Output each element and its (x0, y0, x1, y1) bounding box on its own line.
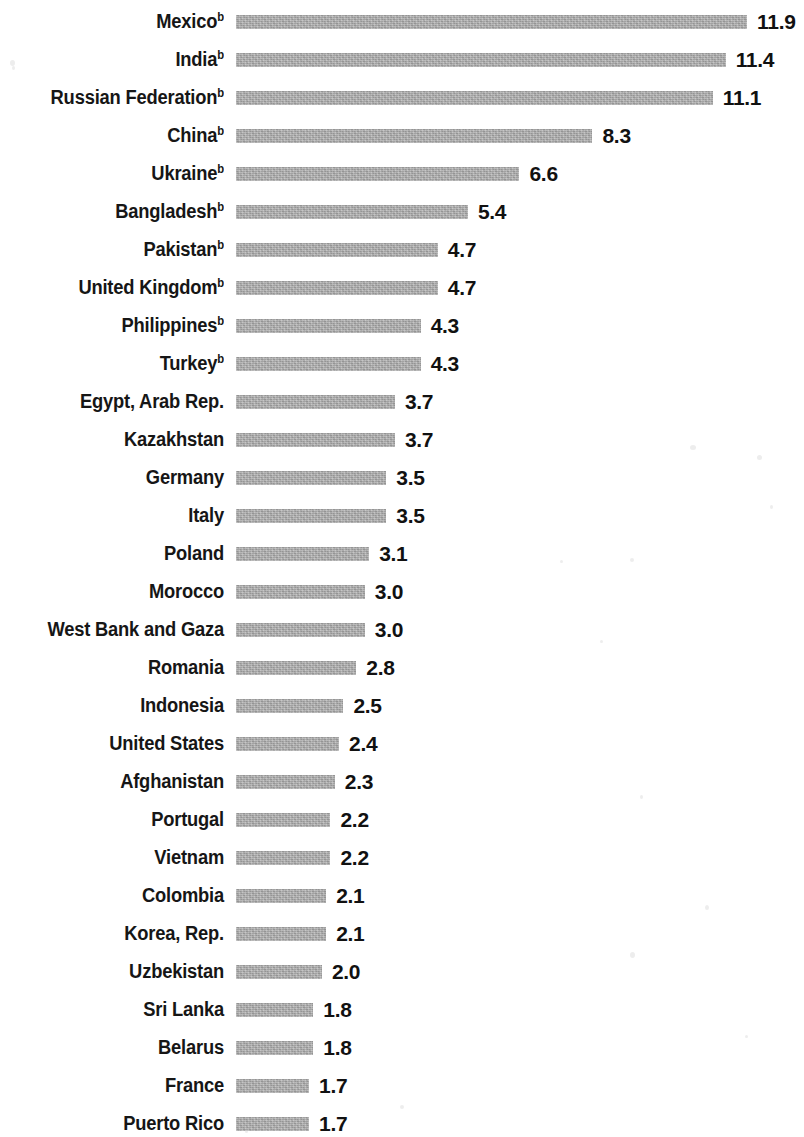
category-label: United States (13, 734, 224, 754)
bar-value-label: 6.6 (529, 163, 557, 184)
footnote-marker: b (217, 47, 224, 61)
bar-value-label: 1.8 (323, 999, 351, 1020)
chart-row: Philippinesb4.3 (0, 307, 804, 345)
category-label: Korea, Rep. (13, 924, 224, 944)
bar (236, 1079, 309, 1093)
chart-row: Italy3.5 (0, 497, 804, 535)
category-label: Turkeyb (13, 354, 224, 374)
bar-value-label: 2.2 (340, 809, 368, 830)
footnote-marker: b (217, 161, 224, 175)
category-label: Morocco (13, 582, 224, 602)
bar-value-label: 1.7 (319, 1075, 347, 1096)
chart-row: Belarus1.8 (0, 1029, 804, 1067)
bar-value-label: 11.4 (736, 49, 775, 70)
bar (236, 889, 326, 903)
bar-value-label: 3.7 (405, 391, 433, 412)
bar-value-label: 3.7 (405, 429, 433, 450)
footnote-marker: b (217, 9, 224, 23)
bar-value-label: 4.7 (448, 239, 476, 260)
bar-value-label: 3.1 (379, 543, 407, 564)
bar (236, 281, 438, 295)
chart-row: West Bank and Gaza3.0 (0, 611, 804, 649)
footnote-marker: b (217, 237, 224, 251)
horizontal-bar-chart: Mexicob11.9Indiab11.4Russian Federationb… (0, 0, 804, 1137)
category-label: Italy (13, 506, 224, 526)
category-label: Romania (13, 658, 224, 678)
category-label: Uzbekistan (13, 962, 224, 982)
category-label: Portugal (13, 810, 224, 830)
bar (236, 661, 356, 675)
category-label: Vietnam (13, 848, 224, 868)
chart-row: Indonesia2.5 (0, 687, 804, 725)
bar-value-label: 3.0 (375, 619, 403, 640)
category-label: France (13, 1076, 224, 1096)
bar (236, 243, 438, 257)
category-label: Indiab (13, 50, 224, 70)
bar-value-label: 2.1 (336, 885, 364, 906)
chart-row: United Kingdomb4.7 (0, 269, 804, 307)
bar (236, 205, 468, 219)
category-label: Kazakhstan (13, 430, 224, 450)
chart-row: Mexicob11.9 (0, 3, 804, 41)
bar (236, 357, 421, 371)
bar-value-label: 2.2 (340, 847, 368, 868)
category-label: United Kingdomb (13, 278, 224, 298)
footnote-marker: b (217, 275, 224, 289)
footnote-marker: b (217, 313, 224, 327)
category-label: Poland (13, 544, 224, 564)
chart-row: Vietnam2.2 (0, 839, 804, 877)
bar-value-label: 2.5 (353, 695, 381, 716)
bar (236, 737, 339, 751)
category-label: Bangladeshb (13, 202, 224, 222)
bar (236, 1003, 313, 1017)
chart-row: Romania2.8 (0, 649, 804, 687)
category-label: Egypt, Arab Rep. (13, 392, 224, 412)
bar-value-label: 1.7 (319, 1113, 347, 1134)
bar (236, 471, 386, 485)
chart-row: Poland3.1 (0, 535, 804, 573)
chart-row: Afghanistan2.3 (0, 763, 804, 801)
category-label: Mexicob (13, 12, 224, 32)
category-label: Germany (13, 468, 224, 488)
bar (236, 509, 386, 523)
bar-value-label: 4.3 (431, 353, 459, 374)
chart-row: Turkeyb4.3 (0, 345, 804, 383)
bar (236, 927, 326, 941)
bar (236, 965, 322, 979)
chart-row: Morocco3.0 (0, 573, 804, 611)
chart-row: Germany3.5 (0, 459, 804, 497)
footnote-marker: b (217, 85, 224, 99)
bar-value-label: 2.3 (345, 771, 373, 792)
category-label: Russian Federationb (13, 88, 224, 108)
category-label: West Bank and Gaza (13, 620, 224, 640)
bar-value-label: 2.0 (332, 961, 360, 982)
bar-value-label: 11.9 (757, 11, 796, 32)
chart-row: Ukraineb6.6 (0, 155, 804, 193)
category-label: Afghanistan (13, 772, 224, 792)
chart-row: Chinab8.3 (0, 117, 804, 155)
chart-row: Kazakhstan3.7 (0, 421, 804, 459)
footnote-marker: b (217, 199, 224, 213)
chart-row: Puerto Rico1.7 (0, 1105, 804, 1137)
category-label: Sri Lanka (13, 1000, 224, 1020)
bar (236, 319, 421, 333)
bar-value-label: 1.8 (323, 1037, 351, 1058)
bar (236, 1041, 313, 1055)
chart-row: Uzbekistan2.0 (0, 953, 804, 991)
category-label: Chinab (13, 126, 224, 146)
chart-row: Russian Federationb11.1 (0, 79, 804, 117)
bar (236, 851, 330, 865)
bar-value-label: 3.0 (375, 581, 403, 602)
bar (236, 699, 343, 713)
chart-row: Korea, Rep.2.1 (0, 915, 804, 953)
bar-value-label: 2.8 (366, 657, 394, 678)
chart-row: France1.7 (0, 1067, 804, 1105)
chart-row: Bangladeshb5.4 (0, 193, 804, 231)
bar-value-label: 11.1 (723, 87, 762, 108)
category-label: Indonesia (13, 696, 224, 716)
chart-row: Portugal2.2 (0, 801, 804, 839)
chart-row: Indiab11.4 (0, 41, 804, 79)
category-label: Puerto Rico (13, 1114, 224, 1134)
bar (236, 585, 365, 599)
chart-row: Sri Lanka1.8 (0, 991, 804, 1029)
